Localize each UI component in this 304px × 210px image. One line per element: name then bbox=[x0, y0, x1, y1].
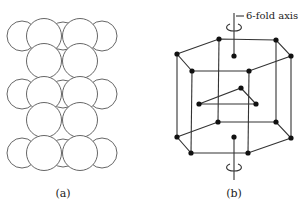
axis-label: 6-fold axis bbox=[246, 10, 298, 21]
panel-a-spheres bbox=[7, 19, 117, 171]
panel-b-hex-cell bbox=[177, 13, 291, 180]
caption-b: (b) bbox=[226, 187, 242, 200]
caption-a: (a) bbox=[55, 187, 70, 200]
figure-canvas: (a) bbox=[0, 0, 304, 210]
